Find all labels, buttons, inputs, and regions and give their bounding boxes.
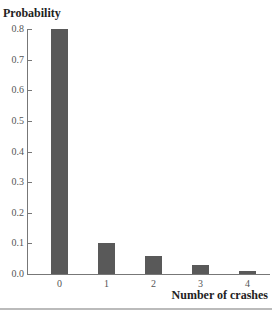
- y-tick: [27, 182, 32, 183]
- x-axis-title: Number of crashes: [172, 288, 268, 303]
- divider: [0, 308, 272, 310]
- y-tick-label: 0.5: [0, 115, 24, 126]
- y-tick-label: 0.2: [0, 207, 24, 218]
- bar: [51, 29, 68, 274]
- y-tick: [27, 213, 32, 214]
- y-tick: [27, 90, 32, 91]
- y-tick: [27, 274, 32, 275]
- x-axis: [27, 274, 270, 275]
- y-tick: [27, 60, 32, 61]
- bar: [192, 265, 209, 274]
- y-tick: [27, 121, 32, 122]
- y-tick-label: 0.7: [0, 54, 24, 65]
- x-tick-label: 2: [145, 278, 162, 289]
- bar: [145, 256, 162, 274]
- y-tick-label: 0.4: [0, 146, 24, 157]
- bar: [239, 271, 256, 274]
- y-tick-label: 0.8: [0, 23, 24, 34]
- y-axis-title: Probability: [3, 6, 61, 21]
- y-tick-label: 0.1: [0, 237, 24, 248]
- y-tick: [27, 152, 32, 153]
- y-tick: [27, 29, 32, 30]
- y-tick-label: 0.0: [0, 268, 24, 279]
- bar: [98, 243, 115, 274]
- y-tick: [27, 243, 32, 244]
- x-tick-label: 1: [98, 278, 115, 289]
- y-tick-label: 0.6: [0, 84, 24, 95]
- x-tick-label: 0: [51, 278, 68, 289]
- y-tick-label: 0.3: [0, 176, 24, 187]
